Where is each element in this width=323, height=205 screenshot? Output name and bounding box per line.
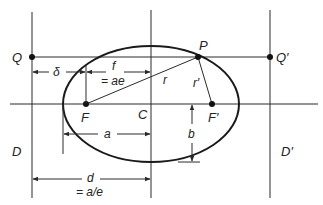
label-a: a: [104, 127, 111, 141]
label-d-prime: D′: [281, 144, 293, 159]
label-r: r: [163, 73, 168, 87]
ellipse-diagram: Q Q′ P F F′ C D D′ r r′ δ f = ae a b d =…: [0, 0, 323, 205]
point-p: [195, 54, 201, 60]
label-d-dim: d: [87, 171, 94, 185]
radius-r-prime: [198, 57, 212, 104]
label-p: P: [199, 38, 208, 53]
point-q-prime: [267, 54, 273, 60]
label-f-dim: f: [112, 59, 117, 73]
label-d: D: [12, 144, 21, 159]
label-q: Q: [12, 50, 22, 65]
label-f: F: [81, 110, 90, 125]
label-f-prime: F′: [208, 110, 219, 125]
label-d-eq: = a/e: [76, 185, 103, 199]
point-f-prime: [209, 101, 215, 107]
label-c: C: [138, 107, 148, 122]
label-f-eq: = ae: [101, 74, 125, 88]
point-q: [29, 54, 35, 60]
label-r-prime: r′: [193, 76, 200, 90]
label-q-prime: Q′: [276, 50, 289, 65]
label-delta: δ: [53, 65, 60, 79]
label-b: b: [188, 127, 195, 141]
